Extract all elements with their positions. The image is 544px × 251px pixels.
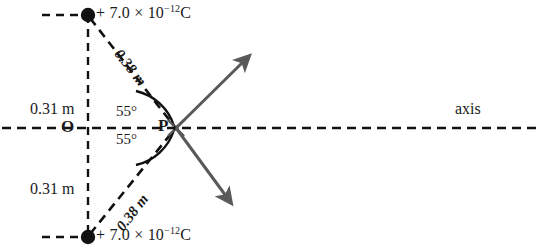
top-charge-value: + 7.0 × 10: [96, 4, 164, 21]
top-charge-dot: [81, 8, 95, 22]
electric-field-vector-upper: [176, 62, 243, 128]
top-charge-exponent: −12: [164, 3, 180, 14]
figure-canvas: + 7.0 × 10−12C + 7.0 × 10−12C 0.31 m 0.3…: [0, 0, 544, 251]
diagram-svg: [0, 0, 544, 251]
bottom-charge-unit: C: [180, 226, 191, 243]
bottom-charge-label: + 7.0 × 10−12C: [96, 225, 191, 244]
top-charge-unit: C: [180, 4, 191, 21]
origin-label: O: [61, 117, 74, 137]
bottom-charge-dot: [81, 230, 95, 244]
bottom-charge-exponent: −12: [164, 225, 180, 236]
bottom-distance-label: 0.31 m: [30, 180, 74, 198]
top-distance-label: 0.31 m: [30, 100, 74, 118]
point-p-label: P: [158, 116, 168, 136]
top-charge-label: + 7.0 × 10−12C: [96, 3, 191, 22]
electric-field-vector-lower: [176, 128, 226, 196]
upper-angle-label: 55°: [116, 103, 137, 120]
lower-angle-label: 55°: [116, 131, 137, 148]
axis-label: axis: [455, 100, 481, 118]
